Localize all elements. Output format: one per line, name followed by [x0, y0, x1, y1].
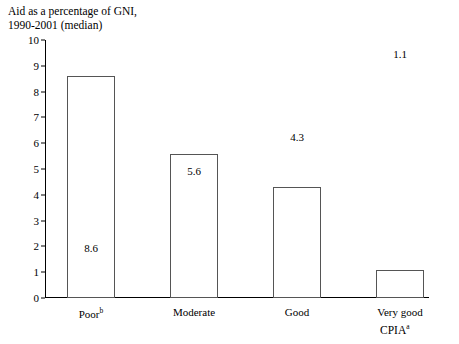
bar-poor[interactable]: [67, 76, 115, 298]
y-tick-label-8: 8: [34, 86, 46, 98]
x-tick-label-moderate: Moderate: [173, 306, 215, 318]
y-tick-label-1: 1: [34, 266, 46, 278]
y-tick-label-4: 4: [34, 189, 46, 201]
x-tick-label-good: Good: [285, 306, 309, 318]
y-tick-label-0: 0: [34, 292, 46, 304]
bar-good[interactable]: [273, 187, 321, 298]
bar-very-good[interactable]: [376, 270, 424, 298]
y-tick-label-9: 9: [34, 60, 46, 72]
x-tick-label-very-good: Very good: [377, 306, 423, 318]
chart-title-line2: 1990-2001 (median): [8, 19, 102, 31]
chart-title: Aid as a percentage of GNI, 1990-2001 (m…: [8, 4, 137, 32]
bar-value-very-good: 1.1: [393, 48, 407, 60]
x-tick-label-poor: Poorb: [79, 306, 104, 320]
chart-container: Aid as a percentage of GNI, 1990-2001 (m…: [0, 0, 459, 344]
y-tick-label-3: 3: [34, 215, 46, 227]
x-tick-label-poor-text: Poor: [79, 308, 100, 320]
plot-area: 0 1 2 3 4 5 6 7 8 9 10 8.6 5.6 4.3 1.1 P…: [45, 40, 435, 298]
y-tick-label-6: 6: [34, 137, 46, 149]
y-tick-label-10: 10: [28, 34, 45, 46]
bar-value-poor: 8.6: [84, 242, 98, 254]
x-axis-title-note: a: [406, 322, 409, 331]
bar-value-moderate: 5.6: [187, 165, 201, 177]
chart-title-line1: Aid as a percentage of GNI,: [8, 5, 137, 17]
x-tick-label-poor-note: b: [100, 306, 104, 315]
y-tick-label-7: 7: [34, 111, 46, 123]
x-axis-title-text: CPIA: [380, 324, 406, 336]
bar-value-good: 4.3: [290, 131, 304, 143]
y-tick-label-5: 5: [34, 163, 46, 175]
y-tick-label-2: 2: [34, 240, 46, 252]
x-axis-title: CPIAa: [380, 322, 410, 336]
